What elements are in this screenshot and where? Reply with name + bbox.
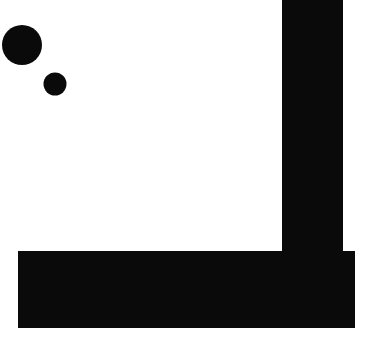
horizontal-bar-shape: [18, 251, 355, 328]
small-circle-shape: [44, 73, 67, 96]
vertical-bar-shape: [282, 0, 343, 252]
shapes-vector-layer: [0, 0, 365, 344]
large-circle-shape: [2, 25, 42, 65]
shapes-canvas: [0, 0, 365, 344]
